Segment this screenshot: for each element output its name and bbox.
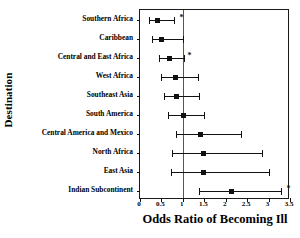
ci-low-cap	[199, 188, 200, 195]
ci-high-cap	[174, 17, 175, 24]
x-axis-tick-label: 0	[137, 200, 141, 208]
odds-ratio-marker	[155, 18, 160, 23]
y-axis-category-label: Southern Africa	[82, 15, 133, 23]
ci-low-cap	[149, 17, 150, 24]
y-axis-tick	[137, 58, 140, 59]
odds-ratio-marker	[201, 151, 206, 156]
confidence-interval-line	[161, 77, 197, 78]
x-axis-title: Odds Ratio of Becoming Ill	[139, 212, 291, 227]
ci-high-cap	[281, 188, 282, 195]
y-axis-tick	[137, 77, 140, 78]
odds-ratio-marker	[173, 75, 178, 80]
ci-high-cap	[183, 36, 184, 43]
y-axis-tick	[137, 96, 140, 97]
confidence-interval-line	[176, 134, 240, 135]
significance-asterisk: *	[188, 52, 192, 60]
y-axis-title-text: Destination	[2, 73, 14, 128]
x-axis-tick-label: 3.5	[285, 200, 294, 208]
ci-low-cap	[152, 36, 153, 43]
odds-ratio-marker	[174, 94, 179, 99]
ci-high-cap	[184, 55, 185, 62]
odds-ratio-marker	[181, 113, 186, 118]
significance-asterisk: *	[179, 14, 183, 22]
ci-high-cap	[241, 131, 242, 138]
odds-ratio-marker	[159, 37, 164, 42]
ci-low-cap	[176, 131, 177, 138]
plot-area: ***	[139, 9, 289, 199]
x-axis-tick-label: 2.5	[242, 200, 251, 208]
y-axis-tick	[137, 134, 140, 135]
significance-asterisk: *	[287, 185, 291, 193]
y-axis-tick	[137, 191, 140, 192]
odds-ratio-marker	[167, 56, 172, 61]
ci-low-cap	[172, 150, 173, 157]
confidence-interval-line	[168, 115, 204, 116]
confidence-interval-line	[149, 20, 175, 21]
y-axis-category-label: Central and East Africa	[58, 53, 133, 61]
x-axis-tick-label: 1.5	[199, 200, 208, 208]
y-axis-category-label: Central America and Mexico	[42, 129, 133, 137]
ci-high-cap	[198, 74, 199, 81]
ci-low-cap	[168, 112, 169, 119]
y-axis-category-label: South America	[86, 110, 133, 118]
y-axis-category-label: Indian Subcontinent	[68, 186, 133, 194]
x-axis-tick-label: 0.5	[156, 200, 165, 208]
forest-plot-figure: Destination Southern AfricaCaribbeanCent…	[0, 0, 300, 238]
odds-ratio-marker	[198, 132, 203, 137]
confidence-interval-line	[172, 153, 262, 154]
y-axis-tick	[137, 172, 140, 173]
y-axis-category-label: East Asia	[104, 167, 133, 175]
y-axis-category-label: Caribbean	[99, 34, 133, 42]
ci-low-cap	[159, 55, 160, 62]
y-axis-tick	[137, 39, 140, 40]
x-axis-tick-label: 1	[180, 200, 184, 208]
ci-low-cap	[171, 169, 172, 176]
ci-high-cap	[269, 169, 270, 176]
y-axis-tick-labels: Southern AfricaCaribbeanCentral and East…	[14, 9, 136, 199]
y-axis-category-label: West Africa	[96, 72, 133, 80]
odds-ratio-marker	[229, 189, 234, 194]
y-axis-tick	[137, 115, 140, 116]
odds-ratio-marker	[201, 170, 206, 175]
confidence-interval-line	[164, 96, 199, 97]
ci-high-cap	[262, 150, 263, 157]
ci-low-cap	[164, 93, 165, 100]
confidence-interval-line	[152, 39, 183, 40]
ci-high-cap	[204, 112, 205, 119]
y-axis-category-label: North Africa	[93, 148, 133, 156]
y-axis-tick	[137, 153, 140, 154]
x-axis-tick-labels: 00.511.522.533.5	[139, 200, 289, 212]
ci-high-cap	[199, 93, 200, 100]
y-axis-tick	[137, 20, 140, 21]
x-axis-tick-label: 3	[266, 200, 270, 208]
confidence-interval-line	[199, 191, 282, 192]
confidence-interval-line	[171, 172, 269, 173]
y-axis-category-label: Southeast Asia	[87, 91, 133, 99]
ci-low-cap	[161, 74, 162, 81]
x-axis-tick-label: 2	[223, 200, 227, 208]
